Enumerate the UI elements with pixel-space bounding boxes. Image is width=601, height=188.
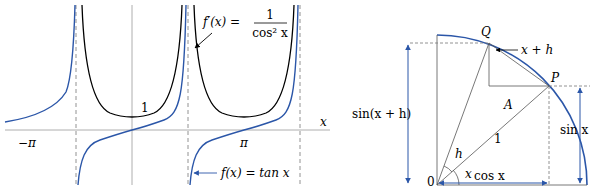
cos-x-label: cos x [474, 169, 505, 183]
tick-label-pi: π [239, 136, 249, 150]
sin-x-label: sin x [560, 123, 589, 137]
radius-label: 1 [494, 132, 502, 146]
origin-label: 0 [427, 175, 435, 188]
tick-label-one: 1 [141, 101, 149, 115]
svg-text:1: 1 [266, 8, 274, 22]
x-plus-h-label: x + h [521, 43, 553, 57]
point-P-label: P [550, 71, 560, 85]
svg-text:cos² x: cos² x [252, 26, 288, 40]
angle-h-label: h [455, 147, 463, 161]
derivative-label: f′(x) = 1 cos² x [202, 8, 288, 40]
right-diagram: Q P A 0 x + h sin(x + h) sin x cos x 1 h… [352, 25, 590, 188]
tan-label: f(x) = tan x [220, 166, 290, 180]
sin-x-plus-h-label: sin(x + h) [352, 107, 411, 121]
tick-label-neg-pi: −π [18, 136, 37, 150]
svg-text:f′(x) =: f′(x) = [202, 15, 240, 29]
point-Q-label: Q [481, 25, 491, 39]
tan-branch-left [5, 5, 75, 122]
derivative-pointer-arrow [195, 33, 212, 48]
radius-OQ [437, 43, 489, 185]
left-plot: −π π 1 x f′(x) = 1 cos² x f(x) = tan x [5, 5, 330, 185]
angle-x-label: x [465, 167, 472, 181]
figure-canvas: −π π 1 x f′(x) = 1 cos² x f(x) = tan x [0, 0, 601, 188]
x-axis-label: x [320, 115, 327, 129]
point-A-label: A [503, 98, 513, 112]
angle-arc-h [444, 166, 452, 172]
